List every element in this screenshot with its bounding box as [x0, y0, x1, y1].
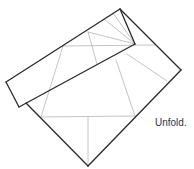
crease-lines — [41, 13, 167, 166]
right-lower-crease — [127, 54, 167, 81]
right-diagonal-crease — [116, 60, 135, 116]
inner-vertical-crease — [88, 32, 97, 64]
fold-edges — [6, 9, 181, 166]
square-bottom-left-edge — [26, 103, 88, 166]
step-caption: Unfold. — [155, 117, 187, 128]
origami-diagram — [0, 0, 194, 169]
left-diagonal-crease — [41, 46, 63, 117]
upper-horizontal-crease — [63, 45, 155, 46]
flap-bottom-edge — [19, 44, 135, 107]
flap-left-edge — [6, 82, 19, 107]
